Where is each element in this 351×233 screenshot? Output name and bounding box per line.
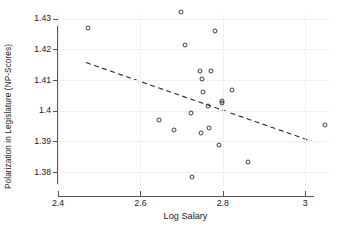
data-point xyxy=(208,69,213,74)
y-axis-tick: 1.43 xyxy=(53,19,58,20)
gridline-horizontal xyxy=(58,172,330,173)
y-axis-tick: 1.39 xyxy=(53,141,58,142)
y-axis-title: Polarization in Legislature (NP-Scores) xyxy=(0,0,16,233)
gridline-vertical xyxy=(58,14,59,186)
x-axis-tick-label: 2.4 xyxy=(52,198,64,208)
scatter-plot-figure: Polarization in Legislature (NP-Scores) … xyxy=(0,0,351,233)
data-point xyxy=(199,131,204,136)
gridline-horizontal xyxy=(58,80,330,81)
y-axis-tick-label: 1.43 xyxy=(34,13,51,23)
y-axis-tick-label: 1.42 xyxy=(34,44,51,54)
data-point xyxy=(197,69,202,74)
gridline-horizontal xyxy=(58,19,330,20)
data-point xyxy=(217,143,222,148)
x-axis-tick-label: 2.6 xyxy=(134,198,146,208)
data-point xyxy=(189,175,194,180)
gridline-horizontal xyxy=(58,49,330,50)
data-point xyxy=(201,90,206,95)
y-axis-tick: 1.41 xyxy=(53,80,58,81)
y-axis-tick: 1.4 xyxy=(53,111,58,112)
x-axis-title: Log Salary xyxy=(58,211,313,221)
data-point xyxy=(199,76,204,81)
x-axis-tick xyxy=(58,191,59,196)
data-point xyxy=(220,100,225,105)
gridline-vertical xyxy=(140,14,141,186)
data-point xyxy=(230,88,235,93)
plot-area xyxy=(58,14,330,186)
data-point xyxy=(213,28,218,33)
y-axis-tick-label: 1.4 xyxy=(39,105,51,115)
gridline-vertical xyxy=(305,14,306,186)
data-point xyxy=(171,128,176,133)
trend-line xyxy=(58,14,330,186)
y-axis-tick-label: 1.39 xyxy=(34,136,51,146)
data-point xyxy=(205,104,210,109)
data-point xyxy=(206,125,211,130)
data-point xyxy=(322,123,327,128)
data-point xyxy=(85,26,90,31)
x-axis-tick xyxy=(305,191,306,196)
x-axis-tick-label: 2.8 xyxy=(217,198,229,208)
x-axis-tick xyxy=(223,191,224,196)
y-axis-tick: 1.38 xyxy=(53,172,58,173)
data-point xyxy=(179,10,184,15)
y-axis-tick-label: 1.41 xyxy=(34,75,51,85)
data-point xyxy=(189,110,194,115)
gridline-horizontal xyxy=(58,141,330,142)
y-axis-tick-label: 1.38 xyxy=(34,167,51,177)
gridline-horizontal xyxy=(58,111,330,112)
y-axis-tick: 1.42 xyxy=(53,49,58,50)
x-axis-line xyxy=(58,196,314,197)
data-point xyxy=(157,117,162,122)
x-axis-tick xyxy=(140,191,141,196)
x-axis-tick-label: 3 xyxy=(303,198,308,208)
data-point xyxy=(182,43,187,48)
data-point xyxy=(245,160,250,165)
